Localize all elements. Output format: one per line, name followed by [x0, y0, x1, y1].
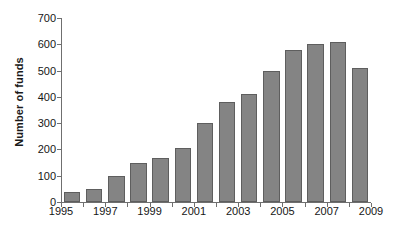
x-axis-tick-label: 2009 [359, 205, 383, 217]
bar [108, 176, 124, 202]
y-axis-tick-label: 400 [38, 91, 56, 103]
y-axis-tick-label: 500 [38, 65, 56, 77]
bar [263, 71, 279, 202]
y-axis-tick-mark [57, 71, 61, 72]
y-axis-tick-label: 600 [38, 38, 56, 50]
x-axis-tick-label: 2003 [226, 205, 250, 217]
bar [64, 192, 80, 203]
bar [130, 163, 146, 202]
y-axis-tick-label: 100 [38, 170, 56, 182]
y-axis-title: Number of funds [8, 0, 30, 204]
bar [152, 158, 168, 202]
bar [307, 44, 323, 202]
x-axis-tick-label: 1997 [93, 205, 117, 217]
y-axis-tick-label: 700 [38, 12, 56, 24]
x-axis-tick-label: 2001 [182, 205, 206, 217]
y-axis-tick-mark [57, 149, 61, 150]
x-axis-tick-labels: 19951997199920012003200520072009 [61, 205, 381, 225]
y-axis-line [61, 18, 62, 202]
bar [86, 189, 102, 202]
x-axis-tick-label: 2005 [270, 205, 294, 217]
y-axis-tick-mark [57, 97, 61, 98]
y-axis-tick-mark [57, 18, 61, 19]
bar [175, 148, 191, 202]
bar [197, 123, 213, 202]
bar [219, 102, 235, 202]
x-axis-tick-label: 1995 [49, 205, 73, 217]
y-axis-tick-mark [57, 123, 61, 124]
y-axis-tick-mark [57, 44, 61, 45]
y-axis-tick-label: 300 [38, 117, 56, 129]
x-axis-tick-label: 1999 [137, 205, 161, 217]
y-axis-title-text: Number of funds [13, 57, 25, 147]
y-axis-tick-label: 200 [38, 143, 56, 155]
bar [352, 68, 368, 202]
x-axis-tick-label: 2007 [314, 205, 338, 217]
y-axis-tick-labels: 0100200300400500600700 [30, 0, 58, 210]
y-axis-tick-mark [57, 176, 61, 177]
bar [330, 42, 346, 202]
bar [285, 50, 301, 202]
bar-chart: Number of funds 0100200300400500600700 1… [0, 0, 401, 244]
plot-area [61, 18, 371, 202]
bar [241, 94, 257, 202]
